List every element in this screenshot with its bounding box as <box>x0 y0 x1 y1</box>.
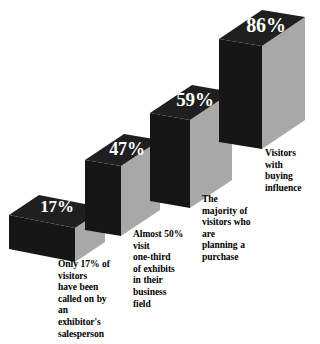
caption-line: in their <box>133 275 213 287</box>
caption-line: majority of <box>202 206 286 218</box>
caption-line: business <box>133 287 213 299</box>
caption-line: one-third <box>133 252 213 264</box>
caption-line: an <box>58 305 144 317</box>
caption-line: Visitors <box>265 148 320 160</box>
bar-4[interactable] <box>219 10 305 149</box>
caption-line: Only 17% of <box>58 259 144 271</box>
caption-line: Almost 50% <box>133 229 213 241</box>
caption-line: have been <box>58 282 144 294</box>
caption-line: purchase <box>202 252 286 264</box>
caption-line: visitors <box>58 271 144 283</box>
bar-2-caption: Almost 50% visit one-third of exhibits i… <box>133 229 213 310</box>
bar-2-front <box>85 160 121 236</box>
bar-4-front <box>219 39 262 149</box>
caption-line: planning a <box>202 240 286 252</box>
bar-3-caption: The majority of visitors who are plannin… <box>202 194 286 264</box>
caption-line: influence <box>265 183 320 195</box>
bar-1-caption: Only 17% of visitors have been called on… <box>58 259 144 340</box>
bar-2[interactable] <box>85 134 160 236</box>
caption-line: buying <box>265 171 320 183</box>
bar-3-front <box>150 113 190 208</box>
caption-line: The <box>202 194 286 206</box>
bar-4-caption: Visitors with buying influence <box>265 148 320 194</box>
caption-line: are <box>202 229 286 241</box>
caption-line: exhibitor's <box>58 317 144 329</box>
caption-line: of exhibits <box>133 264 213 276</box>
caption-line: visit <box>133 241 213 253</box>
bar-chart: 17% 47% 59% 86% Only 17% of visitors hav… <box>0 0 320 344</box>
caption-line: salesperson <box>58 329 144 341</box>
caption-line: field <box>133 299 213 311</box>
caption-line: visitors who <box>202 217 286 229</box>
caption-line: called on by <box>58 294 144 306</box>
caption-line: with <box>265 160 320 172</box>
